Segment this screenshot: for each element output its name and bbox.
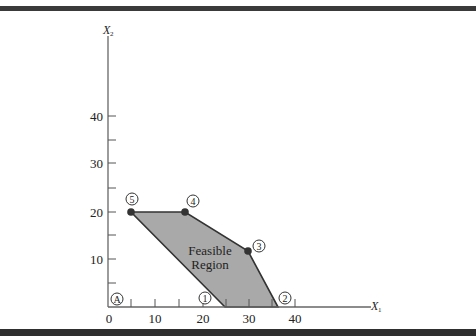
svg-text:2: 2 <box>110 30 114 38</box>
vertex-marker-5 <box>127 208 135 216</box>
svg-text:5: 5 <box>130 194 135 205</box>
vertex-marker-4 <box>181 208 189 216</box>
x-axis-label: X 1 <box>370 299 382 314</box>
point-label-4: 4 <box>187 195 199 207</box>
svg-text:3: 3 <box>257 241 262 252</box>
svg-text:1: 1 <box>378 306 382 314</box>
point-label-a: A <box>111 293 123 305</box>
region-label-line2: Region <box>191 257 229 272</box>
svg-text:A: A <box>113 294 121 305</box>
svg-text:2: 2 <box>283 293 288 304</box>
y-tick-label: 10 <box>90 252 103 267</box>
region-label-line1: Feasible <box>188 243 232 258</box>
x-tick-label: 0 <box>106 311 113 326</box>
point-label-2: 2 <box>279 292 291 304</box>
point-label-1: 1 <box>199 292 211 304</box>
feasible-region-diagram: 40 30 20 10 0 10 20 30 40 X 2 X 1 Feasib… <box>0 0 476 336</box>
y-tick-label: 20 <box>90 205 103 220</box>
x-tick-label: 30 <box>243 311 256 326</box>
x-tick-label: 10 <box>149 311 162 326</box>
svg-text:4: 4 <box>191 196 196 207</box>
y-axis-ticks <box>108 116 116 283</box>
x-tick-label: 20 <box>197 311 210 326</box>
point-label-3: 3 <box>253 240 265 252</box>
svg-text:1: 1 <box>203 293 208 304</box>
x-tick-label: 40 <box>289 311 302 326</box>
y-tick-label: 30 <box>90 156 103 171</box>
vertex-marker-3 <box>244 247 252 255</box>
point-label-5: 5 <box>126 193 138 205</box>
y-tick-label: 40 <box>90 109 103 124</box>
y-axis-label: X 2 <box>102 23 114 38</box>
bottom-rule <box>0 329 476 336</box>
